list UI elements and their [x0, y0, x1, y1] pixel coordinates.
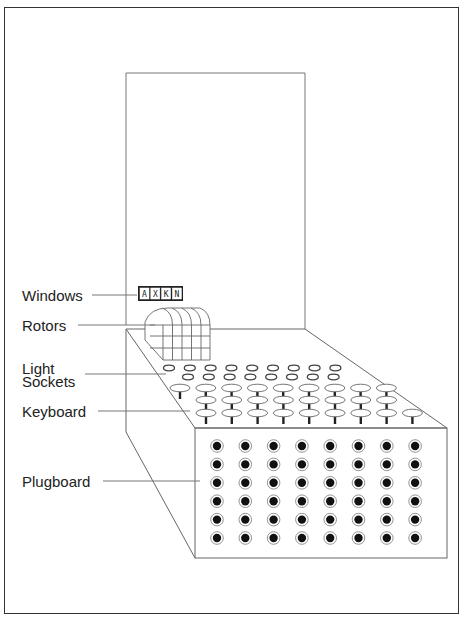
plugboard-sockets: [211, 440, 422, 545]
label-light-sockets: Light Sockets: [22, 362, 75, 388]
svg-text:A: A: [142, 290, 147, 299]
svg-text:X: X: [153, 290, 158, 299]
light-sockets: [164, 365, 341, 380]
label-plugboard: Plugboard: [22, 474, 90, 489]
rotors: [145, 308, 210, 360]
svg-text:K: K: [164, 290, 169, 299]
machine-body: [126, 329, 447, 558]
svg-text:N: N: [174, 290, 179, 299]
label-keyboard: Keyboard: [22, 404, 86, 419]
label-windows: Windows: [22, 288, 83, 303]
keyboard-keys: [170, 384, 422, 424]
rotor-windows: AXKN: [138, 286, 183, 301]
label-rotors: Rotors: [22, 318, 66, 333]
label-light-sockets-line2: Sockets: [22, 373, 75, 390]
enigma-diagram: AXKN: [0, 0, 465, 644]
